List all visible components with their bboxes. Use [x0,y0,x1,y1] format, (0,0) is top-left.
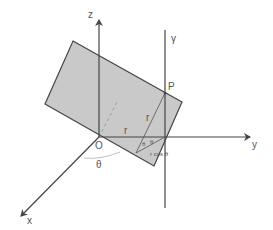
z-axis-label: z [88,9,93,20]
theta-base-label: θ [96,159,102,170]
point-p-label: P [168,81,175,92]
diagram-figure: z y x O γ P r r θ θ θ r cos θ [0,0,273,230]
inclined-plane [45,41,182,166]
gamma-label: γ [171,33,176,44]
r-cos-theta-label: r cos θ [150,151,169,157]
origin-label: O [95,140,103,151]
x-axis [21,137,99,216]
point-p [164,92,167,95]
theta-arc [84,152,120,158]
x-axis-label: x [27,215,32,226]
y-axis-label: y [252,139,257,150]
